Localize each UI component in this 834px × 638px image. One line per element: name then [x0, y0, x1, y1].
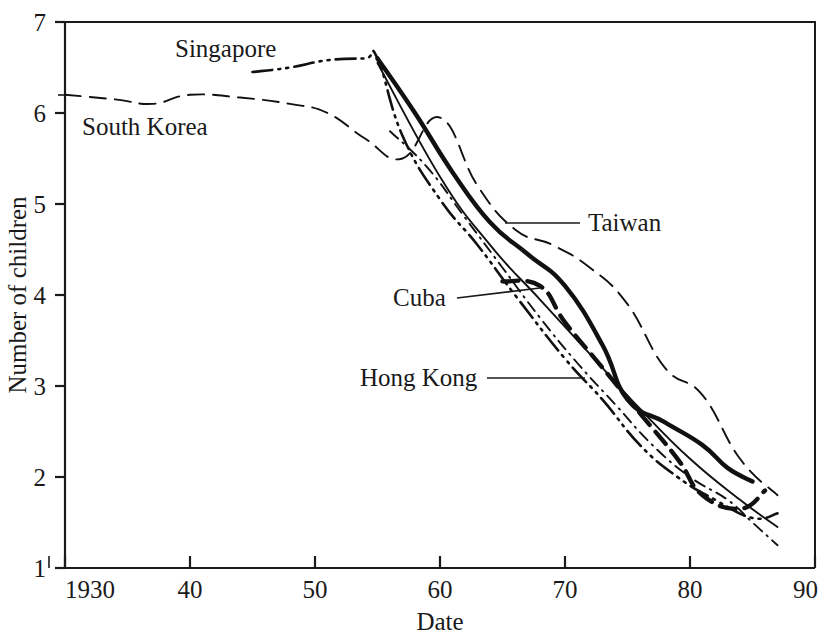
- y-tick-label-2: 2: [34, 464, 47, 491]
- leader-cuba: [457, 288, 540, 298]
- y-tick-label-7: 7: [34, 9, 47, 36]
- series-label-taiwan: Taiwan: [588, 209, 662, 236]
- y-tick-label-1: 1: [34, 555, 47, 582]
- x-tick-label-90: 90: [793, 576, 818, 603]
- x-tick-marks: [49, 556, 815, 568]
- x-tick-label-1930: 1930: [65, 576, 115, 603]
- series-label-cuba: Cuba: [393, 284, 446, 311]
- line-chart: 7 6 5 4 3 2 1 1930 40 50 60 70 80 90 Dat…: [0, 0, 834, 638]
- x-tick-label-70: 70: [553, 576, 578, 603]
- series-label-hong-kong: Hong Kong: [360, 364, 478, 391]
- series-label-south-korea: South Korea: [82, 113, 208, 140]
- y-tick-label-3: 3: [34, 373, 47, 400]
- x-tick-label-50: 50: [303, 576, 328, 603]
- x-axis-title: Date: [416, 608, 463, 635]
- series-label-singapore: Singapore: [175, 35, 276, 62]
- chart-figure: 7 6 5 4 3 2 1 1930 40 50 60 70 80 90 Dat…: [0, 0, 834, 638]
- y-tick-label-4: 4: [34, 282, 47, 309]
- y-tick-label-5: 5: [34, 191, 47, 218]
- series-taiwan: [378, 58, 753, 481]
- x-tick-label-40: 40: [178, 576, 203, 603]
- y-tick-label-6: 6: [34, 100, 47, 127]
- y-axis-title: Number of children: [4, 196, 31, 394]
- x-tick-label-60: 60: [428, 576, 453, 603]
- y-tick-marks: [55, 22, 65, 568]
- x-tick-label-80: 80: [678, 576, 703, 603]
